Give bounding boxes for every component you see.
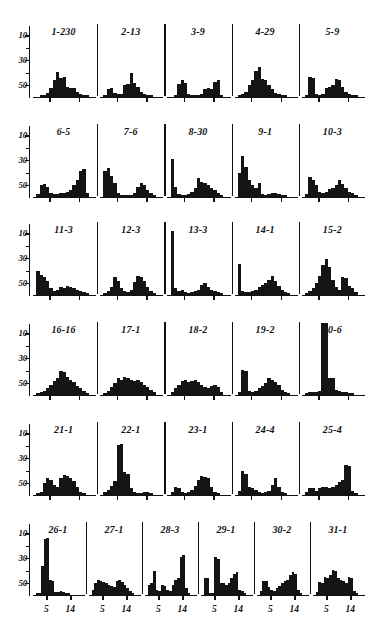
plot-area [167, 324, 226, 396]
histogram-bars [100, 126, 159, 197]
x-axis-tick [184, 296, 185, 300]
x-axis-tick [158, 596, 159, 600]
histogram-bars [100, 324, 159, 395]
histogram-panel: 7-6 [97, 120, 164, 220]
x-axis-baseline [33, 97, 96, 98]
histogram-bar [153, 195, 156, 196]
x-axis-baseline [167, 97, 230, 98]
histogram-panel: 12-3 [97, 218, 164, 318]
histogram-panel: 8-30 [164, 120, 231, 220]
x-axis-tick [184, 496, 185, 500]
histogram-bars [33, 424, 92, 495]
x-axis-baseline [313, 595, 365, 596]
histogram-panel: 26-1514 [30, 518, 86, 618]
x-axis-label: 14 [346, 604, 356, 614]
x-axis-baseline [235, 395, 298, 396]
x-axis-tick [251, 296, 252, 300]
plot-area [100, 126, 159, 198]
histogram-panel: 13-3 [164, 218, 231, 318]
histogram-panel: 24-4 [232, 418, 299, 518]
histogram-bar [149, 95, 152, 96]
histogram-bar [86, 193, 89, 197]
plot-area [235, 424, 294, 496]
histogram-bars [302, 324, 361, 395]
plot-area: 514 [201, 524, 249, 596]
y-axis-label: 30 [19, 454, 27, 463]
plot-area [33, 324, 92, 396]
y-axis-label: 30 [19, 254, 27, 263]
histogram-panel: 18-2 [164, 318, 231, 418]
plot-area [235, 324, 294, 396]
x-axis-label: 5 [44, 604, 49, 614]
histogram-bars [235, 224, 294, 295]
histogram-row: 50301011-312-313-314-115-2 [0, 218, 372, 318]
histogram-bar [284, 95, 287, 96]
histogram-panel: 28-3514 [142, 518, 198, 618]
histogram-bar [171, 231, 174, 294]
x-axis-baseline [167, 395, 230, 396]
histogram-grid-figure: 5030101-2302-133-94-295-95030106-57-68-3… [0, 0, 372, 623]
histogram-panel: 6-5 [30, 120, 97, 220]
histogram-row: 50301016-1617-118-219-220-6 [0, 318, 372, 418]
histogram-panel: 14-1 [232, 218, 299, 318]
histogram-panel: 17-1 [97, 318, 164, 418]
x-axis-tick [270, 596, 271, 600]
x-axis-tick [318, 198, 319, 202]
y-axis: 503010 [0, 20, 30, 120]
histogram-bar [354, 95, 357, 96]
x-axis-baseline [100, 395, 163, 396]
x-axis-tick [49, 296, 50, 300]
y-axis-label: 10 [19, 131, 27, 140]
histogram-bar [300, 593, 303, 594]
histogram-panel: 22-1 [97, 418, 164, 518]
plot-area [302, 424, 361, 496]
histogram-bars [235, 126, 294, 197]
plot-area [167, 26, 226, 98]
x-axis-tick [238, 596, 239, 600]
histogram-bar [220, 195, 223, 196]
x-axis-tick [251, 198, 252, 202]
plot-area: 514 [313, 524, 361, 596]
x-axis-tick [102, 596, 103, 600]
histogram-bar [284, 493, 287, 494]
histogram-bars [201, 524, 249, 595]
histogram-panel: 23-1 [164, 418, 231, 518]
histogram-row: 50301026-151427-151428-351429-151430-251… [0, 518, 372, 618]
x-axis-baseline [302, 295, 365, 296]
x-axis-label: 14 [178, 604, 188, 614]
y-axis-label: 30 [19, 554, 27, 563]
x-axis-tick [213, 496, 214, 500]
x-axis-baseline [145, 595, 197, 596]
histogram-bars [302, 424, 361, 495]
x-axis-baseline [235, 197, 298, 198]
x-axis-tick [79, 198, 80, 202]
plot-area [33, 424, 92, 496]
plot-area [235, 26, 294, 98]
plot-area: 514 [33, 524, 81, 596]
x-axis-tick [182, 596, 183, 600]
plot-area [33, 126, 92, 198]
histogram-bars [313, 524, 361, 595]
x-axis-baseline [33, 197, 96, 198]
x-axis-label: 5 [100, 604, 105, 614]
histogram-bars [167, 126, 226, 197]
histogram-bar [351, 393, 354, 394]
x-axis-label: 14 [234, 604, 244, 614]
histogram-bars [167, 424, 226, 495]
histogram-bar [86, 95, 89, 96]
histogram-bar [220, 392, 223, 394]
plot-area [100, 324, 159, 396]
x-axis-tick [117, 296, 118, 300]
plot-area [100, 424, 159, 496]
x-axis-baseline [302, 197, 365, 198]
y-axis: 503010 [0, 120, 30, 220]
x-axis-tick [117, 396, 118, 400]
histogram-bars [167, 324, 226, 395]
x-axis-baseline [33, 395, 96, 396]
x-axis-tick [184, 396, 185, 400]
x-axis-tick [318, 496, 319, 500]
plot-area [302, 224, 361, 296]
x-axis-tick [126, 596, 127, 600]
histogram-bar [86, 293, 89, 294]
x-axis-tick [49, 496, 50, 500]
